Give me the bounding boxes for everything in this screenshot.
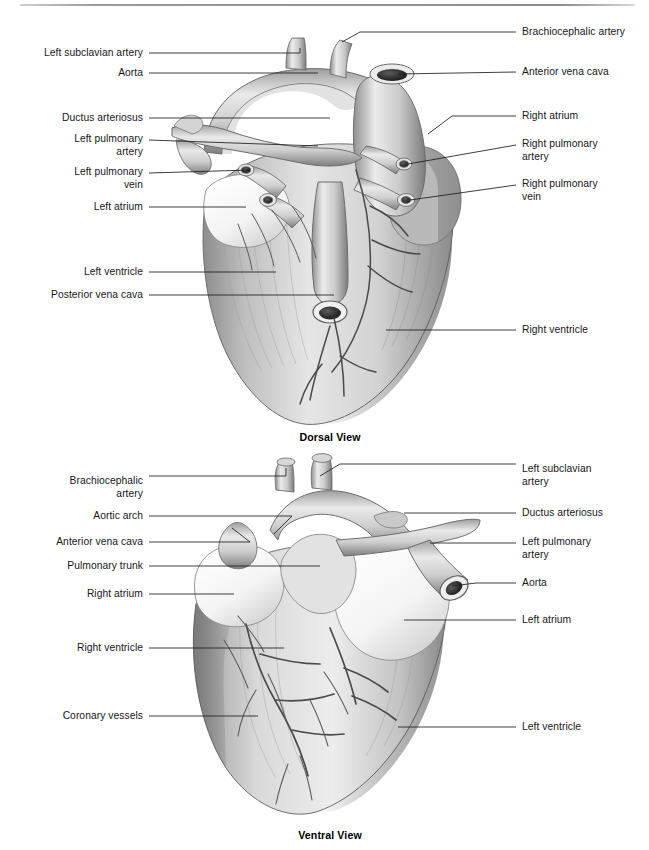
label-aortic-arch-ventral: Aortic arch [93,510,143,523]
figure-page: Left subclavian artery Aorta Ductus arte… [0,0,649,850]
label-right-ventricle-dorsal: Right ventricle [522,324,588,337]
label-right-atrium-ventral: Right atrium [87,588,143,601]
label-aorta-ventral: Aorta [522,577,547,590]
label-right-atrium-dorsal: Right atrium [522,110,578,123]
label-right-ventricle-ventral: Right ventricle [77,642,143,655]
label-aorta-dorsal: Aorta [118,67,143,80]
label-left-atrium-ventral: Left atrium [522,614,571,627]
label-brachiocephalic-artery-ventral: Brachiocephalic artery [70,475,143,500]
label-posterior-vena-cava-dorsal: Posterior vena cava [51,289,143,302]
label-right-pulmonary-vein-dorsal: Right pulmonary vein [522,178,598,203]
caption-ventral-view: Ventral View [298,829,362,841]
label-ductus-arteriosus-ventral: Ductus arteriosus [522,507,603,520]
label-brachiocephalic-artery-dorsal: Brachiocephalic artery [522,26,625,39]
label-left-ventricle-dorsal: Left ventricle [84,266,143,279]
label-anterior-vena-cava-dorsal: Anterior vena cava [522,66,609,79]
caption-dorsal-view: Dorsal View [299,431,360,443]
label-left-atrium-dorsal: Left atrium [94,201,143,214]
label-left-pulmonary-vein-dorsal: Left pulmonary vein [74,166,143,191]
label-left-pulmonary-artery-dorsal: Left pulmonary artery [74,133,143,158]
label-left-ventricle-ventral: Left ventricle [522,721,581,734]
label-left-subclavian-artery-ventral: Left subclavian artery [522,463,591,488]
dorsal-heart-drawing [172,38,461,424]
label-anterior-vena-cava-ventral: Anterior vena cava [56,536,143,549]
label-left-subclavian-artery-dorsal: Left subclavian artery [44,47,143,60]
label-pulmonary-trunk-ventral: Pulmonary trunk [67,560,143,573]
label-right-pulmonary-artery-dorsal: Right pulmonary artery [522,138,598,163]
label-ductus-arteriosus-dorsal: Ductus arteriosus [62,112,143,125]
label-coronary-vessels-ventral: Coronary vessels [63,710,143,723]
ventral-heart-drawing [193,454,480,815]
label-left-pulmonary-artery-ventral: Left pulmonary artery [522,536,591,561]
